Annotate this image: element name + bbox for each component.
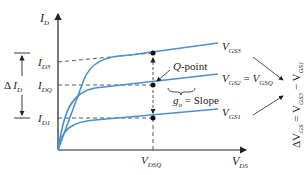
level-id1-label: ID1: [37, 112, 50, 127]
curve-vgs2-label: VGS2 = VGSQ: [222, 72, 273, 87]
fet-characteristics-diagram: ID VDS ID3 IDQ ID1 Δ ID VDSQ VGS3 VGS2 =…: [0, 0, 307, 175]
level-id3-label: ID3: [37, 56, 51, 71]
point-id3: [151, 51, 156, 56]
q-point: [151, 83, 156, 88]
q-point-label: Q-point: [173, 60, 207, 72]
delta-vgs-label: ΔVGS = VGS3 − VGS1: [290, 61, 305, 148]
slope-label: go = Slope: [173, 94, 219, 109]
point-id1: [151, 116, 156, 121]
delta-id-label: Δ ID: [4, 79, 22, 94]
vdsq-label: VDSQ: [141, 154, 161, 169]
curve-vgs3-label: VGS3: [222, 40, 241, 55]
x-axis-label: VDS: [232, 154, 248, 170]
y-axis-label: ID: [39, 11, 49, 27]
level-idq-label: IDQ: [37, 79, 52, 94]
vgs1-pointer: [253, 96, 283, 115]
curve-vgs1-label: VGS1: [222, 106, 241, 121]
curve-vgs1: [58, 109, 218, 150]
